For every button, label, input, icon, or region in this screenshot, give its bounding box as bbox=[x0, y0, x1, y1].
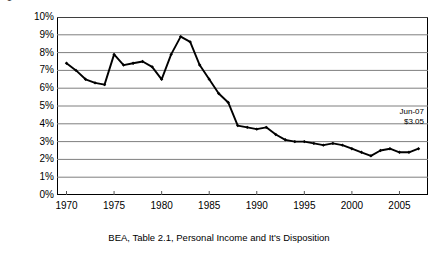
x-axis-tick-label: 1985 bbox=[189, 200, 229, 212]
x-axis-tick-label: 1995 bbox=[284, 200, 324, 212]
data-series-markers bbox=[65, 35, 420, 158]
annotation-line-2: $3.05 bbox=[368, 117, 424, 127]
data-point-marker bbox=[293, 140, 296, 143]
data-point-marker bbox=[303, 140, 306, 143]
x-axis-tick-marks bbox=[67, 191, 400, 195]
data-point-marker bbox=[131, 62, 134, 65]
last-point-annotation: Jun-07 $3.05 bbox=[368, 107, 424, 126]
data-point-marker bbox=[246, 126, 249, 129]
x-axis-tick-label: 1990 bbox=[237, 200, 277, 212]
x-axis-tick-label: 2000 bbox=[332, 200, 372, 212]
x-axis-tick-label: 1975 bbox=[94, 200, 134, 212]
data-point-marker bbox=[255, 127, 258, 130]
annotation-line-1: Jun-07 bbox=[368, 107, 424, 117]
data-point-marker bbox=[322, 143, 325, 146]
gridlines bbox=[57, 17, 428, 177]
chart-source-caption: BEA, Table 2.1, Personal Income and It's… bbox=[0, 232, 438, 244]
plot-canvas bbox=[57, 17, 428, 195]
x-axis-tick-label: 2005 bbox=[379, 200, 419, 212]
data-point-marker bbox=[312, 142, 315, 145]
x-axis-tick-label: 1980 bbox=[142, 200, 182, 212]
chart-figure: % of Per Capita Disposable Income 0%1%2%… bbox=[0, 0, 438, 260]
data-point-marker bbox=[331, 142, 334, 145]
data-series-line bbox=[67, 37, 419, 156]
x-axis-tick-label: 1970 bbox=[47, 200, 87, 212]
